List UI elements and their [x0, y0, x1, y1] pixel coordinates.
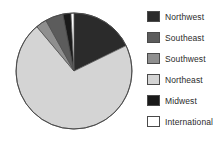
legend-swatch-midwest — [147, 95, 160, 106]
legend-swatch-northwest — [147, 11, 160, 22]
legend-item-southeast[interactable]: Southeast — [147, 27, 223, 48]
legend-label-northwest: Northwest — [165, 12, 204, 22]
legend-item-northwest[interactable]: Northwest — [147, 6, 223, 27]
legend-swatch-northeast — [147, 74, 160, 85]
legend-swatch-international — [147, 116, 160, 127]
pie-slice-group — [16, 13, 132, 129]
legend-item-northeast[interactable]: Northeast — [147, 69, 223, 90]
legend-swatch-southeast — [147, 32, 160, 43]
legend-label-international: International — [165, 117, 213, 127]
legend-item-international[interactable]: International — [147, 111, 223, 132]
legend-item-midwest[interactable]: Midwest — [147, 90, 223, 111]
pie-svg — [0, 0, 145, 143]
chart-legend: Northwest Southeast Southwest Northeast … — [147, 6, 223, 138]
legend-label-midwest: Midwest — [165, 96, 197, 106]
pie-chart-figure: Northwest Southeast Southwest Northeast … — [0, 0, 223, 143]
legend-label-northeast: Northeast — [165, 75, 203, 85]
legend-label-southwest: Southwest — [165, 54, 206, 64]
legend-swatch-southwest — [147, 53, 160, 64]
pie-plot-area — [0, 0, 145, 143]
legend-item-southwest[interactable]: Southwest — [147, 48, 223, 69]
legend-label-southeast: Southeast — [165, 33, 204, 43]
